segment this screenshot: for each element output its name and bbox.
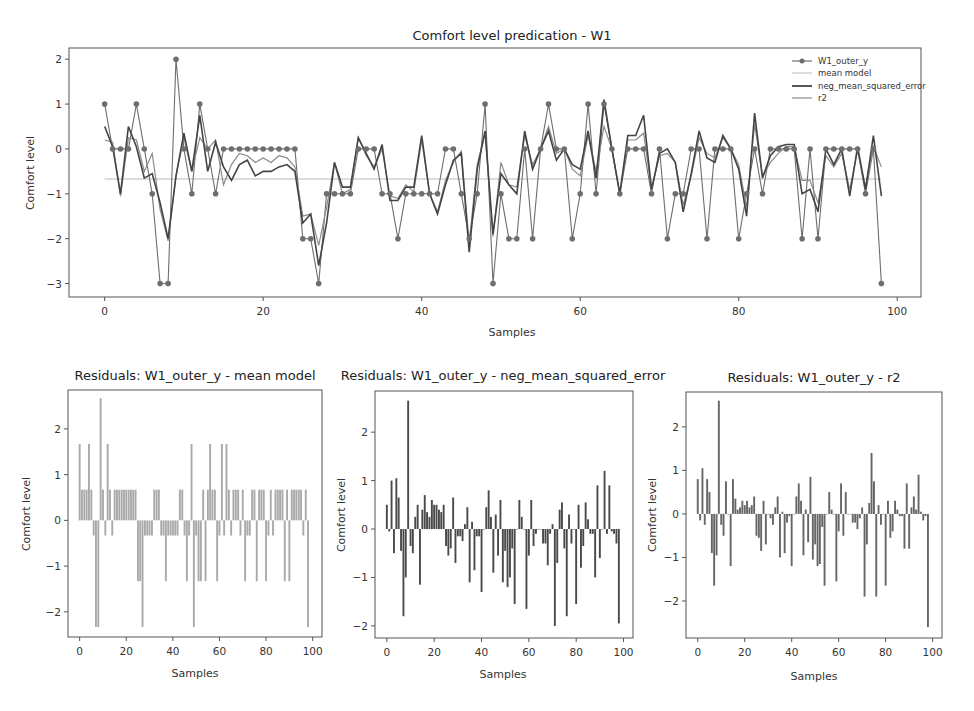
residual-bar: [226, 444, 228, 520]
x-tick-label: 60: [213, 645, 226, 657]
observed-point-marker: [308, 236, 314, 242]
residual-bar: [774, 507, 776, 514]
residual-bar: [918, 475, 920, 514]
residual-bar: [758, 514, 760, 538]
y-tick-label: 2: [672, 421, 679, 433]
observed-point-marker: [466, 236, 472, 242]
y-tick-label: 2: [54, 423, 61, 435]
residual-bar: [300, 490, 302, 521]
residual-bar: [857, 514, 859, 529]
residual-bar: [135, 490, 137, 521]
residual-bar: [597, 485, 599, 529]
residual-bar: [268, 520, 270, 535]
residual-bar: [121, 490, 123, 521]
residual-bar: [854, 514, 856, 523]
residual-bar: [871, 453, 873, 514]
y-tick-label: −1: [46, 560, 61, 572]
residual-bar: [511, 529, 513, 548]
x-tick-label: 100: [887, 305, 907, 317]
residual-bar: [214, 490, 216, 521]
observed-point-marker: [292, 146, 298, 152]
residual-bar: [566, 529, 568, 616]
observed-point-marker: [173, 56, 179, 62]
observed-point-marker: [490, 281, 496, 287]
residual-bar: [922, 514, 924, 521]
observed-point-marker: [546, 101, 552, 107]
x-tick-label: 80: [732, 305, 745, 317]
observed-point-marker: [791, 146, 797, 152]
residual-bar: [518, 500, 520, 529]
residual-bar: [495, 515, 497, 530]
observed-point-marker: [569, 236, 575, 242]
residual-bar: [537, 529, 539, 530]
residual-bar: [109, 490, 111, 521]
residual-bar: [438, 510, 440, 529]
residual-bar: [400, 529, 402, 551]
observed-point-marker: [609, 146, 615, 152]
main-x-axis: 020406080100: [101, 297, 907, 317]
residuals-mean-x-axis-label: Samples: [172, 667, 219, 680]
residual-bar: [149, 520, 151, 535]
residual-bar: [585, 502, 587, 529]
observed-point-marker: [783, 146, 789, 152]
residual-bar: [242, 490, 244, 521]
residual-bar: [233, 490, 235, 521]
residual-bar: [270, 490, 272, 521]
observed-point-marker: [641, 146, 647, 152]
residual-bar: [793, 514, 795, 515]
residual-bar: [850, 514, 852, 515]
residual-bar: [864, 514, 866, 597]
residual-bar: [160, 520, 162, 535]
residual-bar: [842, 514, 844, 536]
residual-bar: [807, 514, 809, 542]
observed-point-marker: [268, 146, 274, 152]
residual-bar: [163, 520, 165, 535]
observed-point-marker: [205, 146, 211, 152]
residual-bar: [573, 529, 575, 530]
residuals-mean-plot-frame: [68, 390, 322, 637]
residual-bar: [528, 529, 530, 556]
residual-bar: [293, 490, 295, 521]
x-tick-label: 40: [475, 646, 488, 658]
residuals-mean-model-chart: Residuals: W1_outer_y - mean model 210−1…: [20, 368, 323, 680]
observed-point-marker: [419, 191, 425, 197]
legend-label: r2: [818, 93, 827, 103]
legend-item-mean-model: mean model: [792, 68, 871, 78]
residual-bar: [540, 529, 542, 530]
observed-point-marker: [680, 191, 686, 197]
residuals-r2-y-axis-label: Comfort level: [646, 478, 659, 552]
residual-bar: [526, 529, 528, 609]
residual-bar: [102, 490, 104, 521]
residual-bar: [391, 481, 393, 529]
residual-bar: [295, 490, 297, 521]
figure: Comfort level predication - W1 210−1−2−3…: [0, 0, 974, 711]
x-tick-label: 100: [303, 645, 323, 657]
observed-point-marker: [554, 146, 560, 152]
x-tick-label: 20: [120, 645, 133, 657]
residual-bar: [725, 481, 727, 514]
residual-bar: [386, 505, 388, 529]
residual-bar: [521, 517, 523, 529]
observed-point-marker: [300, 236, 306, 242]
x-tick-label: 60: [574, 305, 587, 317]
residual-bar: [221, 444, 223, 520]
residual-bar: [514, 529, 516, 604]
observed-point-marker: [379, 191, 385, 197]
residual-bar: [485, 507, 487, 529]
residual-bar: [139, 520, 141, 581]
residual-bar: [95, 520, 97, 627]
residual-bar: [781, 512, 783, 514]
observed-point-marker: [324, 191, 330, 197]
observed-point-marker: [768, 146, 774, 152]
y-tick-label: −2: [353, 620, 368, 632]
x-tick-label: 100: [614, 646, 634, 658]
residual-bar: [889, 514, 891, 538]
observed-point-marker: [538, 146, 544, 152]
residual-bar: [414, 517, 416, 529]
residual-bar: [205, 520, 207, 581]
residual-bar: [739, 507, 741, 514]
residual-bar: [908, 514, 910, 549]
residual-bar: [580, 529, 582, 568]
residual-bar: [249, 520, 251, 535]
main-x-axis-label: Samples: [489, 326, 536, 339]
